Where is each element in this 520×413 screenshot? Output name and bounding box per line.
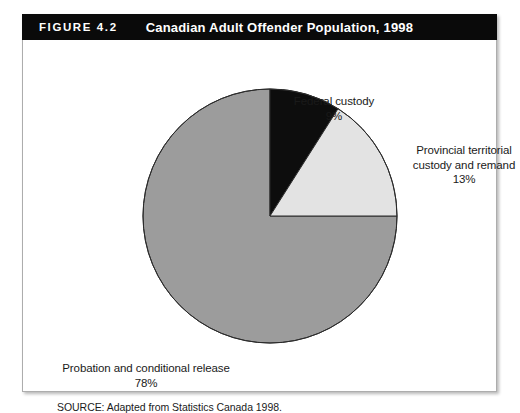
pie-chart [23, 40, 496, 391]
pie-label-provincial-custody-line1: Provincial territorial [416, 144, 512, 156]
pie-label-federal-custody-text: Federal custody [294, 95, 374, 107]
pie-label-provincial-custody-line2: custody and remand [413, 159, 515, 171]
pie-label-federal-custody-percent: 9% [276, 109, 392, 124]
figure-title: Canadian Adult Offender Population, 1998 [146, 20, 414, 35]
pie-label-provincial-custody-percent: 13% [396, 172, 520, 187]
pie-label-probation-text: Probation and conditional release [62, 362, 229, 374]
pie-label-probation-percent: 78% [57, 376, 235, 391]
pie-label-federal-custody: Federal custody 9% [276, 94, 392, 123]
pie-chart-svg [23, 40, 496, 391]
source-note: SOURCE: Adapted from Statistics Canada 1… [57, 401, 282, 413]
pie-label-probation: Probation and conditional release 78% [57, 361, 235, 390]
pie-label-provincial-custody: Provincial territorial custody and reman… [396, 143, 520, 187]
chart-body: Federal custody 9% Provincial territoria… [23, 40, 496, 391]
figure-number: FIGURE 4.2 [39, 21, 118, 33]
figure-header-bar: FIGURE 4.2 Canadian Adult Offender Popul… [22, 14, 497, 40]
